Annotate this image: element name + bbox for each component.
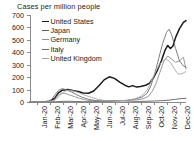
legend-swatch-icon: [42, 58, 49, 59]
y-axis-tick-labels: 0100200300400500600700: [0, 0, 29, 141]
y-tick-label: 700: [12, 11, 24, 20]
y-tick-label: 300: [12, 60, 24, 69]
x-tick-mark: [141, 102, 142, 105]
y-tick-label: 200: [12, 73, 24, 82]
legend-item[interactable]: United Kingdom: [42, 54, 102, 63]
y-tick-label: 500: [12, 35, 24, 44]
x-tick-mark: [89, 102, 90, 105]
x-tick-mark: [76, 102, 77, 105]
x-tick-label: Aug-20: [131, 106, 140, 129]
x-tick-mark: [115, 102, 116, 105]
y-tick-label: 600: [12, 23, 24, 32]
x-tick-mark: [167, 102, 168, 105]
x-tick-label: Apr-20: [79, 106, 88, 128]
x-tick-label: Jun-20: [105, 106, 114, 128]
line-chart: Cases per million people 010020030040050…: [0, 0, 194, 141]
x-tick-label: Oct-20: [157, 106, 166, 128]
legend-label: Italy: [51, 45, 64, 54]
x-tick-label: Sep-20: [144, 106, 153, 129]
x-tick-label: Nov-20: [170, 106, 179, 129]
x-tick-label: Mar-20: [66, 106, 75, 129]
x-tick-mark: [180, 102, 181, 105]
x-tick-mark: [102, 102, 103, 105]
legend-label: United States: [51, 17, 94, 26]
x-tick-label: May-20: [92, 106, 101, 130]
legend-swatch-icon: [42, 30, 49, 31]
x-tick-label: Dec-20: [183, 106, 192, 129]
legend-label: United Kingdom: [51, 54, 102, 63]
x-tick-mark: [63, 102, 64, 105]
x-tick-label: Feb-20: [53, 106, 62, 129]
legend-item[interactable]: Germany: [42, 35, 102, 44]
legend-swatch-icon: [42, 39, 49, 40]
x-tick-mark: [128, 102, 129, 105]
x-axis-tick-labels: Jan-20Feb-20Mar-20Apr-20May-20Jun-20Jul-…: [30, 102, 186, 141]
legend-item[interactable]: Japan: [42, 26, 102, 35]
chart-title: Cases per million people: [17, 2, 100, 11]
x-tick-mark: [50, 102, 51, 105]
x-tick-mark: [154, 102, 155, 105]
y-tick-label: 0: [20, 98, 24, 107]
x-tick-label: Jan-20: [40, 106, 49, 128]
y-tick-label: 100: [12, 85, 24, 94]
legend-swatch-icon: [42, 21, 49, 22]
legend-item[interactable]: Italy: [42, 45, 102, 54]
y-tick-label: 400: [12, 48, 24, 57]
legend-item[interactable]: United States: [42, 17, 102, 26]
legend-label: Germany: [51, 35, 81, 44]
legend-swatch-icon: [42, 49, 49, 50]
legend-label: Japan: [51, 26, 71, 35]
chart-legend: United StatesJapanGermanyItalyUnited Kin…: [42, 17, 102, 63]
x-tick-label: Jul-20: [118, 106, 127, 126]
